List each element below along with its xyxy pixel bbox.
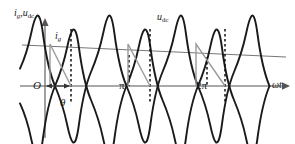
udc-label: udc (157, 12, 168, 23)
theta-arrow-head-left (46, 83, 52, 88)
y-axis-label: ig,udc (14, 8, 34, 19)
waveform-figure: ig,udc udc ig O θ π 2π ωt (0, 0, 295, 144)
origin-label: O (33, 80, 41, 91)
firing-angle-label: θ (60, 97, 65, 108)
ig-label: ig (55, 31, 61, 42)
tick-label-two-pi: 2π (196, 80, 207, 91)
waveform-canvas (0, 0, 295, 144)
theta-arrow-head-right (64, 83, 70, 88)
tick-label-pi: π (119, 80, 125, 91)
x-axis-arrowhead (282, 82, 290, 90)
x-axis-label: ωt (272, 80, 282, 90)
udc-envelope-line (22, 45, 286, 57)
